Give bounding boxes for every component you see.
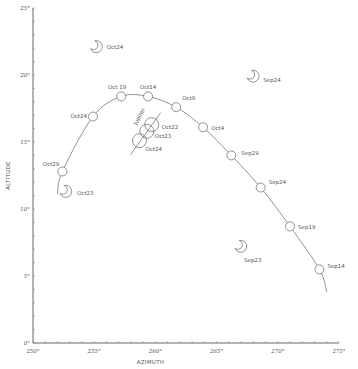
y-tick-label: 15° — [20, 139, 30, 145]
axes: 0°5°10°15°20°25°250°255°260°265°270°275°… — [5, 5, 346, 365]
moon-crescent-icon — [60, 185, 72, 197]
y-tick-label: 5° — [24, 273, 30, 279]
y-tick-label: 0° — [24, 340, 30, 346]
moon-crescent-icon — [235, 240, 247, 252]
jupiter-date-label: Oct23 — [155, 133, 172, 139]
y-tick-label: 20° — [19, 72, 30, 78]
venus-date-label: Sep14 — [327, 263, 345, 270]
venus-marker-circle — [144, 92, 153, 101]
venus-date-label: Sep19 — [298, 224, 316, 231]
venus-date-label: Sep24 — [269, 179, 287, 186]
altitude-azimuth-chart: 0°5°10°15°20°25°250°255°260°265°270°275°… — [0, 0, 358, 369]
venus-marker-circle — [227, 151, 236, 160]
moon-crescent-icon — [247, 70, 259, 82]
venus-marker-circle — [256, 183, 265, 192]
x-tick-label: 275° — [331, 348, 345, 354]
venus-date-label: Sep29 — [241, 150, 259, 157]
x-tick-label: 270° — [270, 348, 284, 354]
x-tick-label: 250° — [25, 348, 39, 354]
venus-marker-circle — [58, 167, 67, 176]
jupiter-positions: Oct22Oct23Oct24Jupiter — [130, 106, 178, 154]
venus-date-label: Oct29 — [43, 161, 60, 167]
venus-marker-circle — [286, 222, 295, 231]
venus-marker-circle — [199, 123, 208, 132]
moon-date-label: Oct24 — [107, 44, 124, 50]
venus-marker-circle — [315, 265, 324, 274]
venus-date-label: Oct14 — [140, 84, 157, 90]
y-axis-title: ALTITUDE — [5, 161, 11, 190]
venus-track-line — [57, 94, 326, 292]
jupiter-marker-circle — [132, 134, 146, 148]
venus-date-label: Oct9 — [182, 95, 196, 101]
x-tick-label: 255° — [87, 348, 101, 354]
venus-marker-circle — [88, 112, 97, 121]
x-tick-label: 260° — [148, 348, 162, 354]
moon-date-label: Sep24 — [263, 77, 281, 84]
y-tick-label: 10° — [20, 206, 30, 212]
moon-date-label: Oct23 — [77, 190, 94, 196]
y-tick-label: 25° — [19, 5, 30, 11]
venus-date-label: Oct4 — [211, 125, 225, 131]
venus-marker-circle — [117, 92, 126, 101]
venus-marker-circle — [172, 103, 181, 112]
jupiter-date-label: Oct24 — [145, 146, 162, 152]
x-tick-label: 265° — [209, 348, 223, 354]
x-axis-title: AZIMUTH — [137, 359, 165, 365]
moon-crescent-icon — [91, 41, 103, 53]
venus-date-label: Oct 19 — [108, 84, 127, 90]
jupiter-date-label: Oct22 — [162, 124, 179, 130]
venus-path: Sep14Sep19Sep24Sep29Oct4Oct9Oct14Oct 19O… — [43, 84, 345, 292]
moon-date-label: Sep23 — [244, 257, 262, 264]
venus-date-label: Oct24 — [70, 113, 87, 119]
